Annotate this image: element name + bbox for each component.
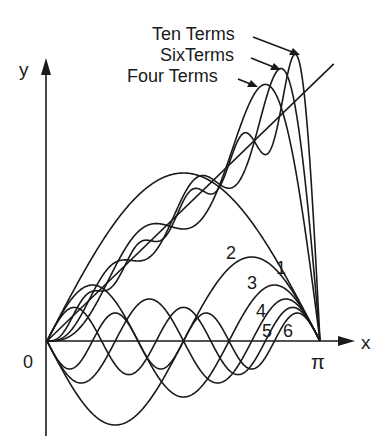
y-axis-arrow-icon (41, 58, 51, 75)
x-axis-arrow-icon (338, 336, 355, 346)
term-6-label: 6 (283, 321, 293, 341)
term-4-label: 4 (256, 301, 266, 321)
term-3-label: 3 (247, 273, 257, 293)
y-axis-label: y (19, 59, 29, 80)
pi-label: π (311, 351, 325, 373)
origin-label: 0 (23, 352, 33, 372)
x-axis-label: x (361, 332, 371, 353)
ten-terms-arrow (253, 37, 295, 53)
six-terms-label: SixTerms (160, 45, 234, 65)
four-terms-label: Four Terms (127, 66, 218, 86)
term-5-label: 5 (262, 321, 272, 341)
partial-sum-6-curve (47, 68, 320, 341)
ten-terms-label: Ten Terms (152, 24, 235, 44)
term-2-label: 2 (226, 243, 236, 263)
term-1-curve (47, 173, 320, 341)
partial-sum-10-curve (47, 54, 320, 341)
term-1-label: 1 (276, 258, 286, 278)
curves-group (47, 54, 334, 425)
fourier-series-diagram: y x 0 π Ten Terms SixTerms Four Terms 1 … (0, 0, 387, 443)
